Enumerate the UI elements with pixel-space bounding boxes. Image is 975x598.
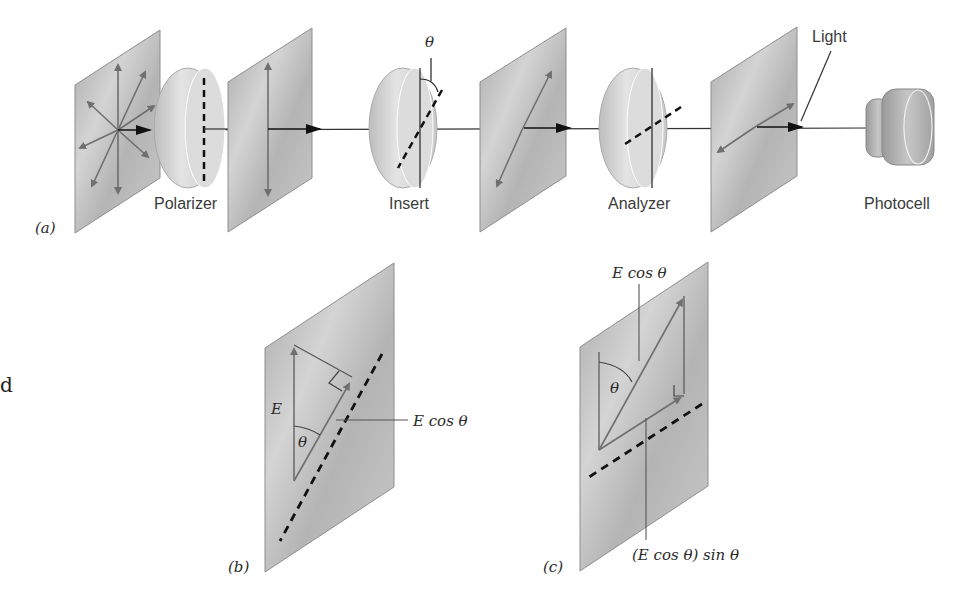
panel-a: Polarizer θ Insert [35, 27, 934, 237]
polarizer-disk [154, 68, 230, 188]
label-theta: θ [610, 379, 619, 397]
panel-c-tag: (c) [543, 558, 563, 576]
light-leader-line [801, 51, 831, 121]
label-E-cos-theta: E cos θ [412, 412, 468, 430]
label-polarizer: Polarizer [154, 195, 218, 212]
label-insert: Insert [389, 195, 430, 212]
panel-b: E θ E cos θ (b) [228, 263, 468, 576]
label-E: E [270, 400, 282, 418]
label-analyzer: Analyzer [608, 195, 671, 212]
insert-disk [369, 58, 442, 188]
label-theta: θ [298, 433, 307, 451]
plate-tilted-polarized [480, 28, 570, 232]
panel-a-tag: (a) [35, 219, 56, 237]
plate-vertical-polarized [228, 28, 320, 232]
panel-c: E cos θ θ (E cos θ) sin θ (c) [543, 262, 739, 576]
margin-text-fragment: d [0, 373, 13, 397]
panel-b-tag: (b) [228, 558, 249, 576]
label-theta-insert: θ [425, 33, 434, 51]
label-light: Light [812, 28, 847, 45]
label-projection: (E cos θ) sin θ [632, 546, 739, 564]
plate-output [711, 27, 802, 232]
plate-unpolarized [75, 30, 160, 233]
label-photocell: Photocell [864, 195, 930, 212]
label-E-cos-theta: E cos θ [611, 264, 667, 282]
photocell-icon [866, 89, 934, 165]
